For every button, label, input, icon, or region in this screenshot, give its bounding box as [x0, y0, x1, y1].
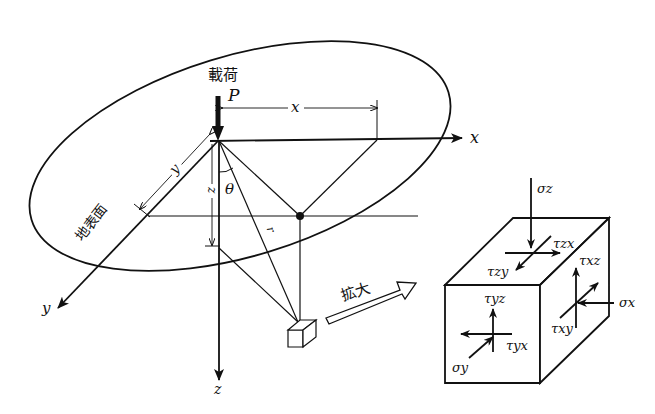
- boussinesq-stress-diagram: 載荷 P x x y y 地表面 z z: [0, 0, 655, 414]
- x-dimension-line: [222, 100, 377, 140]
- y-axis-label: y: [41, 299, 51, 317]
- enlarge-label: 拡大: [339, 279, 373, 305]
- sigma-y-label: σy: [452, 360, 469, 375]
- tau-yx-label: τyx: [506, 338, 529, 353]
- x-axis: [210, 138, 462, 141]
- load-symbol: P: [227, 85, 240, 105]
- z-axis-label: z: [213, 381, 222, 397]
- tau-xy-label: τxy: [551, 321, 574, 336]
- r-label: r: [264, 225, 278, 235]
- surface-label: 地表面: [72, 201, 110, 244]
- small-element-icon: [288, 320, 316, 347]
- y-dimension-line: [134, 134, 210, 217]
- z-dimension-label: z: [205, 186, 219, 194]
- z-dimension-line: [205, 144, 220, 246]
- load-label: 載荷: [208, 66, 238, 84]
- point-dot: [296, 212, 304, 220]
- tau-xz-label: τxz: [579, 253, 601, 268]
- x-dimension-label: x: [291, 98, 300, 116]
- sigma-z-label: σz: [537, 181, 553, 196]
- x-axis-label: x: [470, 128, 479, 147]
- sigma-x-label: σx: [619, 295, 636, 310]
- load-arrow-icon: [212, 96, 224, 141]
- tau-zy-label: τzy: [487, 264, 509, 279]
- tau-zx-label: τzx: [553, 236, 575, 251]
- tau-yz-label: τyz: [484, 291, 506, 306]
- theta-label: θ: [225, 180, 234, 198]
